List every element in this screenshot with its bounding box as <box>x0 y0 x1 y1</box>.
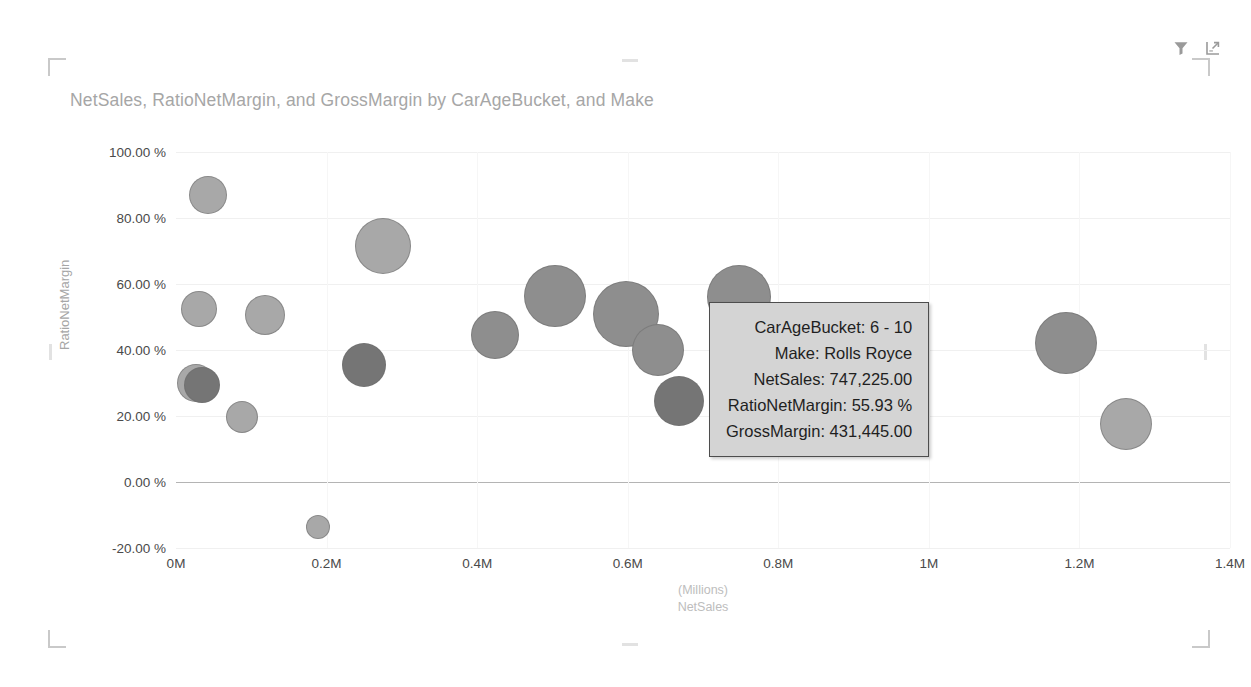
focus-mode-icon[interactable] <box>1203 38 1223 58</box>
y-tick-label: 0.00 % <box>124 475 166 490</box>
bubble-data-point[interactable] <box>189 176 227 214</box>
x-axis-field: NetSales <box>176 599 1230 616</box>
tooltip-row: NetSales: 747,225.00 <box>726 366 912 392</box>
gridline-y-60 <box>176 284 1230 285</box>
x-tick-label: 0M <box>167 556 186 571</box>
bubble-data-point[interactable] <box>1100 398 1152 450</box>
y-axis-title: RatioNetMargin <box>57 260 72 350</box>
bubble-data-point[interactable] <box>306 515 330 539</box>
tooltip-row: GrossMargin: 431,445.00 <box>726 418 912 444</box>
gridline-y-0 <box>176 482 1230 483</box>
gridline-x-7 <box>1230 152 1231 548</box>
x-tick-label: 0.8M <box>763 556 793 571</box>
tooltip-row: RatioNetMargin: 55.93 % <box>726 392 912 418</box>
tooltip-row: Make: Rolls Royce <box>726 340 912 366</box>
x-tick-label: 1M <box>919 556 938 571</box>
bubble-chart-visual[interactable]: NetSales, RatioNetMargin, and GrossMargi… <box>0 0 1251 687</box>
bubble-data-point[interactable] <box>342 343 386 387</box>
gridline-y-80 <box>176 218 1230 219</box>
x-axis-units: (Millions) <box>176 582 1230 599</box>
selection-corner-top-right <box>1192 58 1210 76</box>
gridline-x-3 <box>628 152 629 548</box>
selection-corner-bottom-right <box>1192 630 1210 648</box>
data-point-tooltip: CarAgeBucket: 6 - 10Make: Rolls RoyceNet… <box>709 302 929 457</box>
filter-icon[interactable] <box>1171 38 1191 58</box>
chart-title: NetSales, RatioNetMargin, and GrossMargi… <box>70 90 654 111</box>
visual-header-icons <box>1171 38 1223 58</box>
y-tick-label: -20.00 % <box>112 541 166 556</box>
y-tick-label: 20.00 % <box>116 409 166 424</box>
y-tick-label: 100.00 % <box>109 145 166 160</box>
bubble-data-point[interactable] <box>524 265 586 327</box>
plot-area[interactable]: 100.00 %80.00 %60.00 %40.00 %20.00 %0.00… <box>176 152 1230 548</box>
gridline-y-100 <box>176 152 1230 153</box>
x-tick-label: 0.6M <box>613 556 643 571</box>
resize-handle-top[interactable] <box>622 59 638 62</box>
resize-handle-left[interactable] <box>49 344 52 360</box>
selection-corner-top-left <box>48 58 66 76</box>
x-tick-label: 0.2M <box>312 556 342 571</box>
x-axis-title: (Millions) NetSales <box>176 582 1230 616</box>
resize-handle-bottom[interactable] <box>622 643 638 646</box>
x-tick-label: 1.4M <box>1215 556 1245 571</box>
gridline-y--20 <box>176 548 1230 549</box>
y-tick-label: 40.00 % <box>116 343 166 358</box>
bubble-data-point[interactable] <box>245 295 285 335</box>
selection-corner-bottom-left <box>48 630 66 648</box>
bubble-data-point[interactable] <box>355 218 411 274</box>
bubble-data-point[interactable] <box>632 324 684 376</box>
bubble-data-point[interactable] <box>1035 312 1097 374</box>
gridline-y-20 <box>176 416 1230 417</box>
y-tick-label: 60.00 % <box>116 277 166 292</box>
gridline-x-1 <box>327 152 328 548</box>
x-tick-label: 1.2M <box>1064 556 1094 571</box>
tooltip-row: CarAgeBucket: 6 - 10 <box>726 314 912 340</box>
bubble-data-point[interactable] <box>181 291 217 327</box>
bubble-data-point[interactable] <box>184 367 220 403</box>
x-tick-label: 0.4M <box>462 556 492 571</box>
bubble-data-point[interactable] <box>471 311 519 359</box>
bubble-data-point[interactable] <box>654 376 704 426</box>
y-tick-label: 80.00 % <box>116 211 166 226</box>
bubble-data-point[interactable] <box>226 401 258 433</box>
